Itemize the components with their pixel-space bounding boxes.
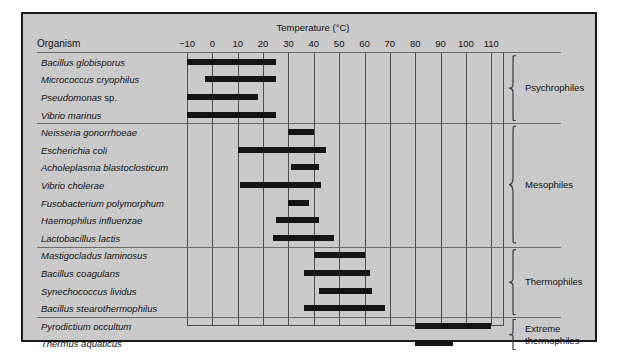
group-label: Mesophiles	[525, 179, 573, 191]
x-tick-label: 0	[210, 38, 215, 49]
x-tick-label: 110	[484, 38, 499, 49]
x-tick-label: 70	[385, 38, 396, 49]
organism-label: Mastigocladus laminosus	[41, 250, 147, 261]
temperature-range-bar	[187, 59, 276, 65]
x-axis-title: Temperature (°C)	[188, 22, 438, 33]
organism-label: Escherichia coli	[41, 144, 107, 155]
x-tick-label: 90	[435, 38, 446, 49]
temperature-range-bar	[288, 129, 313, 135]
x-tick-label: 30	[283, 38, 294, 49]
temperature-range-bar	[273, 235, 334, 241]
temperature-range-bar	[415, 323, 491, 329]
organism-label: Micrococcus cryophilus	[41, 74, 139, 85]
organism-label: Lactobacillus lactis	[41, 232, 120, 243]
organism-label: Vibrio cholerae	[41, 179, 104, 190]
group-block: Mesophiles	[508, 125, 573, 244]
temperature-range-bar	[276, 217, 319, 223]
x-tick-label: 100	[458, 38, 474, 49]
organism-label: Fusobacterium polymorphum	[41, 197, 164, 208]
organism-label: Synechococcus lividus	[41, 285, 137, 296]
x-tick-label: 10	[232, 38, 243, 49]
group-label: Thermophiles	[525, 276, 583, 288]
x-tick-label: 80	[410, 38, 421, 49]
group-block: Thermophiles	[508, 249, 583, 315]
chart-figure: Temperature (°C) Organism −1001020304050…	[21, 12, 597, 342]
curly-brace-icon	[508, 55, 518, 121]
temperature-range-bar	[205, 76, 276, 82]
organism-label: Neisseria gonorrhoeae	[41, 127, 137, 138]
temperature-range-bar	[319, 288, 372, 294]
temperature-range-bar	[288, 200, 308, 206]
organism-label: Bacillus stearothermophilus	[41, 303, 157, 314]
group-block: Extremethermophiles	[508, 319, 579, 350]
temperature-range-bar	[415, 340, 453, 346]
organism-label: Acholeplasma blastoclosticum	[41, 162, 168, 173]
curly-brace-icon	[508, 319, 518, 350]
x-axis-tick-labels: −100102030405060708090100110	[23, 38, 595, 52]
group-block: Psychrophiles	[508, 55, 584, 121]
organism-label: Bacillus globisporus	[41, 56, 125, 67]
group-label: Psychrophiles	[525, 82, 584, 94]
x-tick-label: 50	[334, 38, 345, 49]
organism-label: Thermus aquaticus	[41, 338, 122, 349]
temperature-range-bar	[238, 147, 327, 153]
organism-label: Bacillus coagulans	[41, 267, 120, 278]
x-tick-label: 40	[309, 38, 320, 49]
curly-brace-icon	[508, 249, 518, 315]
organism-label: Vibrio marinus	[41, 109, 102, 120]
curly-brace-icon	[508, 125, 518, 244]
temperature-range-bar	[304, 270, 370, 276]
temperature-range-bar	[187, 112, 276, 118]
temperature-range-bar	[291, 164, 319, 170]
temperature-range-bar	[187, 94, 258, 100]
x-tick-label: −10	[179, 38, 195, 49]
group-label: Extremethermophiles	[525, 323, 579, 347]
temperature-range-bar	[240, 182, 321, 188]
temperature-range-bar	[314, 252, 365, 258]
organism-label: Haemophilus influenzae	[41, 215, 142, 226]
temperature-range-bar	[304, 305, 385, 311]
organism-label: Pyrodictium occultum	[41, 320, 131, 331]
organism-label: Pseudomonas sp.	[41, 91, 117, 102]
x-tick-label: 20	[258, 38, 269, 49]
x-tick-label: 60	[359, 38, 370, 49]
